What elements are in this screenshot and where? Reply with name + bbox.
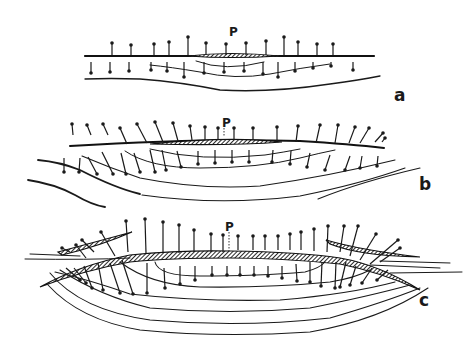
down-arrow-tip	[343, 168, 347, 172]
up-arrow-tip	[299, 230, 303, 234]
down-arrow-tip	[78, 278, 82, 282]
up-arrow	[190, 126, 192, 140]
up-arrow	[360, 128, 369, 143]
up-arrow-tip	[129, 43, 133, 47]
down-arrow-tip	[293, 69, 297, 73]
panel-c-outer-curve-2	[50, 273, 420, 324]
down-arrow-tip	[295, 279, 299, 283]
down-arrow	[150, 150, 155, 172]
panel-b-lens	[150, 139, 282, 144]
down-arrow-tip	[111, 172, 115, 176]
down-arrow-tip	[165, 69, 169, 73]
down-arrow	[350, 266, 356, 285]
up-arrow-tip	[342, 224, 346, 228]
down-arrow-tip	[138, 170, 142, 174]
up-arrow-tip	[186, 35, 190, 39]
down-arrow-tip	[210, 273, 214, 277]
down-arrow-tip	[225, 273, 229, 277]
up-arrow-tip	[203, 125, 207, 129]
up-arrow-tip	[74, 243, 78, 247]
up-arrow-tip	[216, 126, 220, 130]
down-arrow-tip	[338, 285, 342, 289]
up-arrow	[103, 124, 108, 135]
up-arrow-tip	[192, 228, 196, 232]
up-arrow-tip	[85, 123, 89, 127]
up-arrow-tip	[99, 230, 103, 234]
up-arrow-tip	[315, 42, 319, 46]
panel-b-deep-bed-left	[28, 180, 105, 207]
down-arrow-tip	[358, 166, 362, 170]
up-arrow-tip	[167, 40, 171, 44]
up-arrow-tip	[209, 232, 213, 236]
panel-b-inner-curve-1	[150, 149, 300, 157]
up-arrow-tip	[236, 234, 240, 238]
stratigraphy-diagram: P a P b	[0, 0, 473, 344]
down-arrow-tip	[311, 66, 315, 70]
up-arrow-tip	[264, 39, 268, 43]
down-arrow	[122, 260, 133, 294]
down-arrow-tip	[196, 162, 200, 166]
panel-a-point-label: P	[229, 25, 238, 39]
up-arrow	[316, 125, 320, 143]
down-arrow	[335, 262, 336, 288]
panel-c: P c	[25, 217, 462, 334]
down-arrow-tip	[305, 165, 309, 169]
up-arrow	[327, 226, 328, 252]
up-arrow-tip	[353, 125, 357, 129]
up-arrow-tip	[374, 232, 378, 236]
up-arrow-tip	[224, 42, 228, 46]
down-arrow-tip	[230, 160, 234, 164]
up-arrow-tip	[143, 217, 147, 221]
up-arrow-tip	[60, 246, 64, 250]
up-arrow-tip	[251, 234, 255, 238]
panel-b-point-label: P	[222, 116, 231, 130]
down-arrow-tip	[163, 286, 167, 290]
panel-a: P a	[85, 25, 405, 105]
up-arrow	[296, 126, 298, 142]
down-arrow	[345, 156, 350, 170]
up-arrow-tip	[312, 227, 316, 231]
up-arrow-tip	[336, 123, 340, 127]
down-arrow-tip	[270, 160, 274, 164]
down-arrow-tip	[247, 160, 251, 164]
up-arrow-tip	[367, 126, 371, 130]
up-arrow-tip	[152, 42, 156, 46]
down-arrow-tip	[261, 72, 265, 76]
up-arrow-tip	[80, 238, 84, 242]
down-arrow-tip	[323, 168, 327, 172]
down-arrow	[121, 153, 126, 174]
down-arrow-tip	[308, 280, 312, 284]
up-arrow-tip	[124, 219, 128, 223]
up-arrow-tip	[263, 234, 267, 238]
down-arrow-tip	[276, 75, 280, 79]
down-arrow-tip	[90, 286, 94, 290]
down-arrow-tip	[182, 75, 186, 79]
up-arrow-tip	[177, 223, 181, 227]
down-arrow	[340, 262, 346, 287]
down-arrow-tip	[124, 172, 128, 176]
down-arrow	[296, 264, 297, 281]
up-arrow-tip	[381, 131, 385, 135]
down-arrow-tip	[164, 168, 168, 172]
down-arrow-tip	[131, 292, 135, 296]
panel-b-deep-bed-right	[318, 168, 420, 199]
panel-b-inner-curve-2	[125, 150, 335, 168]
down-arrow	[177, 151, 181, 167]
up-arrow-tip	[318, 123, 322, 127]
down-arrow	[325, 155, 330, 170]
panel-a-label: a	[394, 85, 405, 105]
down-arrow-tip	[84, 281, 88, 285]
down-arrow-tip	[280, 276, 284, 280]
up-arrow	[335, 125, 338, 143]
down-arrow-tip	[153, 170, 157, 174]
up-arrow-tip	[288, 232, 292, 236]
down-arrow-tip	[222, 70, 226, 74]
up-arrow-tip	[383, 136, 387, 140]
down-arrow-tip	[348, 283, 352, 287]
up-arrow	[155, 122, 163, 142]
down-arrow-tip	[252, 273, 256, 277]
down-arrow-tip	[149, 68, 153, 72]
panel-a-up-arrows	[110, 35, 335, 55]
down-arrow-tip	[178, 282, 182, 286]
down-arrow	[272, 150, 273, 162]
